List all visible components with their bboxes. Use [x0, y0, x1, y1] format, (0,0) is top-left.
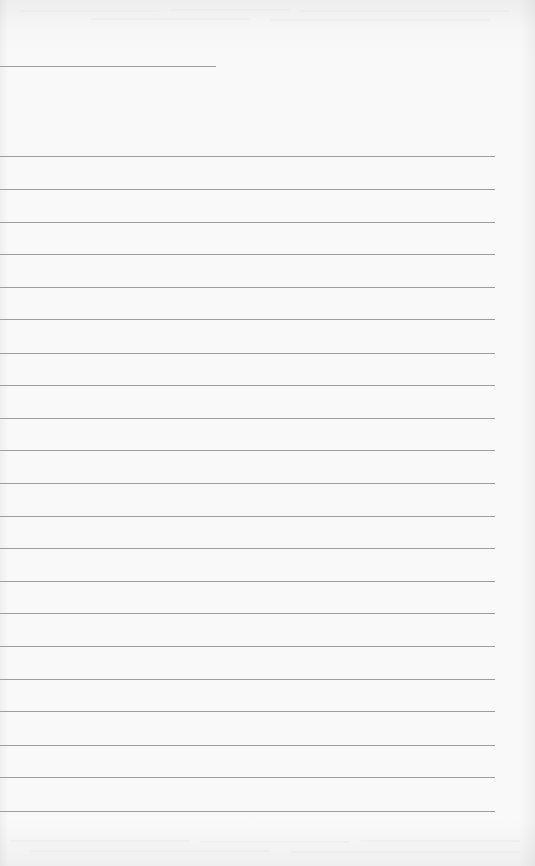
writing-line[interactable] [0, 548, 495, 549]
writing-line[interactable] [0, 516, 495, 517]
writing-line[interactable] [0, 287, 495, 288]
writing-line[interactable] [0, 613, 495, 614]
writing-line[interactable] [0, 222, 495, 223]
ruled-paper-sheet [0, 0, 535, 866]
writing-line[interactable] [0, 450, 495, 451]
writing-line[interactable] [0, 711, 495, 712]
writing-line[interactable] [0, 811, 495, 812]
writing-line[interactable] [0, 319, 495, 320]
writing-line[interactable] [0, 777, 495, 778]
writing-line[interactable] [0, 385, 495, 386]
writing-line[interactable] [0, 646, 495, 647]
writing-line[interactable] [0, 418, 495, 419]
bleed-through-bottom [0, 832, 535, 862]
bleed-through-top [0, 4, 535, 26]
header-write-line[interactable] [0, 66, 216, 67]
writing-line[interactable] [0, 745, 495, 746]
writing-line[interactable] [0, 254, 495, 255]
writing-line[interactable] [0, 679, 495, 680]
writing-line[interactable] [0, 189, 495, 190]
writing-line[interactable] [0, 156, 495, 157]
writing-line[interactable] [0, 483, 495, 484]
writing-line[interactable] [0, 353, 495, 354]
writing-line[interactable] [0, 581, 495, 582]
